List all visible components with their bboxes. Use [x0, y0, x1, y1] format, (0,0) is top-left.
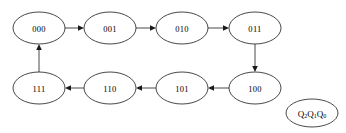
state-label: 101: [175, 84, 189, 94]
state-node-111[interactable]: 111: [13, 72, 65, 104]
arrow-head-icon: [65, 85, 71, 91]
state-label: 110: [103, 84, 116, 94]
state-label: 010: [175, 24, 189, 34]
arrow-head-icon: [150, 25, 156, 31]
arrow-head-icon: [208, 85, 214, 91]
arrow-head-icon: [252, 66, 258, 72]
state-node-010[interactable]: 010: [156, 12, 208, 44]
legend-label: Q2Q1Q0: [298, 109, 327, 120]
edge-111-to-000: [36, 44, 42, 72]
arrow-head-icon: [136, 85, 142, 91]
legend-state-encoding: Q2Q1Q0: [286, 99, 338, 127]
edge-101-to-110: [136, 85, 156, 91]
edge-011-to-100: [252, 44, 258, 72]
edge-000-to-001: [65, 25, 84, 31]
edge-010-to-011: [208, 25, 229, 31]
state-label: 111: [32, 84, 45, 94]
state-label: 011: [248, 24, 261, 34]
legend-q0-sub: 0: [323, 113, 326, 119]
arrow-head-icon: [36, 44, 42, 50]
state-diagram-canvas: 000 001 010 011 100 101 110 111: [0, 0, 346, 133]
state-node-100[interactable]: 100: [229, 72, 281, 104]
state-node-001[interactable]: 001: [84, 12, 136, 44]
state-label: 001: [103, 24, 117, 34]
state-label: 100: [248, 84, 262, 94]
state-label: 000: [32, 24, 46, 34]
state-node-011[interactable]: 011: [229, 12, 281, 44]
state-node-101[interactable]: 101: [156, 72, 208, 104]
edge-001-to-010: [136, 25, 156, 31]
state-diagram-svg: 000 001 010 011 100 101 110 111: [0, 0, 346, 133]
edge-110-to-111: [65, 85, 84, 91]
arrow-head-icon: [78, 25, 84, 31]
state-node-000[interactable]: 000: [13, 12, 65, 44]
edge-100-to-101: [208, 85, 229, 91]
state-node-110[interactable]: 110: [84, 72, 136, 104]
arrow-head-icon: [223, 25, 229, 31]
